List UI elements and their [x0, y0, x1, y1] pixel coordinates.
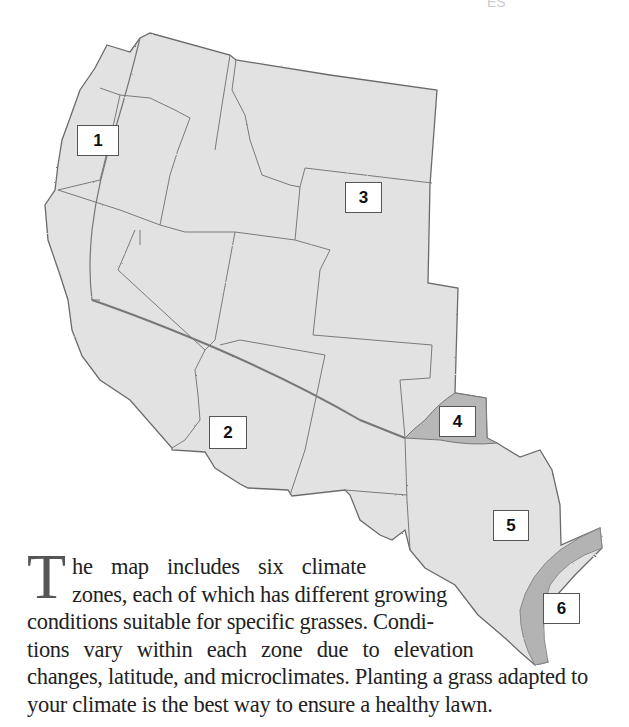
- caption-line: conditions suitable for specific grasses…: [27, 608, 617, 636]
- zone-label-1: 1: [77, 125, 119, 156]
- caption-line: tions vary within each zone due to eleva…: [27, 636, 617, 664]
- caption-line: zones, each of which has different growi…: [27, 581, 617, 609]
- caption-line: changes, latitude, and microclimates. Pl…: [27, 663, 617, 691]
- drop-cap: T: [27, 545, 66, 609]
- zone-label-5: 5: [493, 510, 529, 541]
- caption-line: he map includes six climate: [27, 553, 617, 581]
- zone-label-3: 3: [345, 182, 382, 213]
- zone-label-2: 2: [209, 416, 247, 449]
- caption-line: your climate is the best way to ensure a…: [27, 691, 617, 719]
- zone-label-4: 4: [439, 406, 476, 437]
- map-caption: T he map includes six climate zones, eac…: [27, 553, 617, 718]
